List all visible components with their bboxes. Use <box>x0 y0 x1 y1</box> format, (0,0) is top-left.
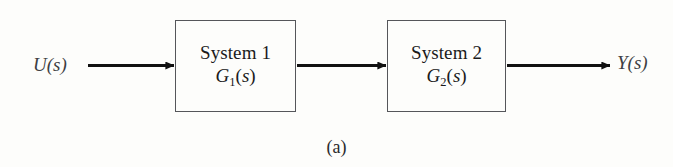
input-signal-label: U(s) <box>33 54 67 76</box>
tf-base-2: G <box>426 65 440 86</box>
system-block-2-title: System 2 <box>411 43 482 63</box>
system-block-2[interactable]: System 2 G2(s) <box>387 20 506 112</box>
tf-base-1: G <box>215 65 229 86</box>
system-block-2-transfer-function: G2(s) <box>426 66 466 90</box>
tf-paren-close-1: ) <box>249 65 255 86</box>
system-block-1[interactable]: System 1 G1(s) <box>175 20 296 112</box>
figure-caption: (a) <box>0 137 673 158</box>
system-block-1-title: System 1 <box>200 43 271 63</box>
input-signal-text: U(s) <box>33 54 67 75</box>
block-diagram-figure: U(s) System 1 G1(s) System 2 G2(s) Y(s) … <box>0 0 673 167</box>
output-signal-label: Y(s) <box>617 52 648 74</box>
system-block-1-transfer-function: G1(s) <box>215 66 255 90</box>
tf-paren-close-2: ) <box>460 65 466 86</box>
output-signal-text: Y(s) <box>617 52 648 73</box>
